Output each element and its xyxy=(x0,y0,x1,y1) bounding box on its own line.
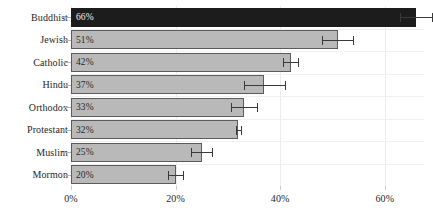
bar: 25% xyxy=(71,143,202,162)
error-bar-cap xyxy=(168,171,169,180)
x-axis: 0%20%40%60% xyxy=(71,186,424,213)
error-bar xyxy=(283,62,299,63)
bar: 33% xyxy=(71,98,244,117)
bar-row: 42% xyxy=(71,51,424,74)
error-bar-cap xyxy=(283,58,284,67)
y-axis-tick-mark xyxy=(62,17,71,18)
y-axis-label-row: Jewish xyxy=(0,29,71,52)
y-axis-tick-mark xyxy=(62,85,71,86)
error-bar-cap xyxy=(191,148,192,157)
bar-row: 32% xyxy=(71,119,424,142)
y-axis-label-row: Buddhist xyxy=(0,6,71,29)
y-axis-label-row: Protestant xyxy=(0,119,71,142)
error-bar-cap xyxy=(241,126,242,135)
bar-value-label: 33% xyxy=(76,102,94,112)
y-axis-label-row: Muslim xyxy=(0,141,71,164)
y-axis-label-row: Orthodox xyxy=(0,96,71,119)
bar-value-label: 42% xyxy=(76,57,94,67)
y-axis-label-row: Hindu xyxy=(0,74,71,97)
error-bar-cap xyxy=(322,36,323,45)
bar-row: 51% xyxy=(71,29,424,52)
bar: 66% xyxy=(71,8,416,27)
error-bar xyxy=(191,152,212,153)
error-bar xyxy=(322,40,353,41)
x-axis-tick-label: 20% xyxy=(166,193,185,204)
error-bar-cap xyxy=(244,81,245,90)
x-axis-tick-mark xyxy=(176,186,177,190)
y-axis-labels: BuddhistJewishCatholicHinduOrthodoxProte… xyxy=(0,6,71,186)
bar: 20% xyxy=(71,165,176,184)
x-axis-tick-label: 60% xyxy=(375,193,394,204)
y-axis-label-row: Mormon xyxy=(0,164,71,187)
x-axis-tick-label: 0% xyxy=(64,193,78,204)
bar-row: 20% xyxy=(71,164,424,187)
error-bar-cap xyxy=(212,148,213,157)
bar-row: 37% xyxy=(71,74,424,97)
bar-value-label: 51% xyxy=(76,35,94,45)
bar-value-label: 25% xyxy=(76,147,94,157)
y-axis-tick-mark xyxy=(62,175,71,176)
bar: 32% xyxy=(71,120,238,139)
y-axis-tick-mark xyxy=(62,152,71,153)
error-bar-cap xyxy=(183,171,184,180)
bar-value-label: 20% xyxy=(76,170,94,180)
bar: 42% xyxy=(71,53,291,72)
error-bar xyxy=(231,107,257,108)
x-axis-tick-label: 40% xyxy=(271,193,290,204)
bar-value-label: 32% xyxy=(76,125,94,135)
error-bar xyxy=(244,85,286,86)
bar-row: 33% xyxy=(71,96,424,119)
x-axis-tick-mark xyxy=(280,186,281,190)
bar-row: 25% xyxy=(71,141,424,164)
bar-row: 66% xyxy=(71,6,424,29)
bar-value-label: 37% xyxy=(76,80,94,90)
y-axis-label-row: Catholic xyxy=(0,51,71,74)
y-axis-tick-mark xyxy=(62,40,71,41)
error-bar-cap xyxy=(257,103,258,112)
y-axis-tick-mark xyxy=(62,130,71,131)
bar-rows: 66%51%42%37%33%32%25%20% xyxy=(71,6,424,186)
error-bar xyxy=(168,175,184,176)
plot-area: 66%51%42%37%33%32%25%20% xyxy=(71,6,424,186)
error-bar-cap xyxy=(353,36,354,45)
error-bar-cap xyxy=(236,126,237,135)
error-bar-cap xyxy=(285,81,286,90)
error-bar-cap xyxy=(231,103,232,112)
y-axis-tick-mark xyxy=(62,107,71,108)
error-bar xyxy=(400,17,431,18)
bar: 37% xyxy=(71,75,264,94)
error-bar-cap xyxy=(400,13,401,22)
bar-value-label: 66% xyxy=(76,12,94,22)
error-bar-cap xyxy=(298,58,299,67)
bar: 51% xyxy=(71,30,338,49)
x-axis-tick-mark xyxy=(385,186,386,190)
x-axis-tick-mark xyxy=(71,186,72,190)
y-axis-tick-mark xyxy=(62,62,71,63)
